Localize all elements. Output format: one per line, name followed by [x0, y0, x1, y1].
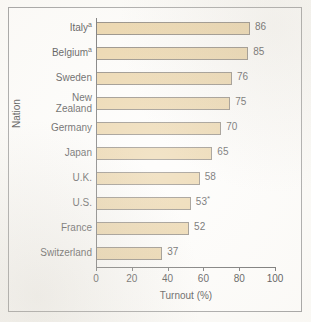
x-tick-label: 60 [198, 273, 209, 284]
category-label: France [6, 222, 92, 233]
bar-row: Sweden76 [96, 68, 275, 93]
bar-row: Japan65 [96, 143, 275, 168]
bar [96, 247, 162, 260]
bar-row: U.K.58 [96, 168, 275, 193]
x-tick [203, 267, 204, 271]
bar [96, 122, 221, 135]
bar-value-label: 75 [235, 95, 246, 108]
bar-row: U.S.53* [96, 193, 275, 218]
category-label: Japan [6, 147, 92, 158]
x-tick-label: 0 [93, 273, 99, 284]
category-label: Switzerland [6, 247, 92, 258]
bar-value-label: 58 [205, 170, 216, 183]
bar [96, 222, 189, 235]
x-tick [132, 267, 133, 271]
y-axis-title: Nation [11, 99, 22, 128]
bar [96, 97, 230, 110]
y-axis-line [96, 18, 97, 268]
chart-figure: Italya86Belgiuma85Sweden76NewZealand75Ge… [0, 0, 311, 322]
category-label: Belgiuma [6, 47, 92, 58]
bar-row: France52 [96, 218, 275, 243]
bar-row: NewZealand75 [96, 93, 275, 118]
x-tick [239, 267, 240, 271]
x-tick-label: 20 [126, 273, 137, 284]
x-axis-line [96, 267, 276, 268]
category-label: Sweden [6, 72, 92, 83]
bar [96, 22, 250, 35]
x-axis-title: Turnout (%) [96, 290, 276, 301]
bar-row: Italya86 [96, 18, 275, 43]
category-label: U.S. [6, 197, 92, 208]
x-tick [96, 267, 97, 271]
bar-value-label: 70 [226, 120, 237, 133]
bar [96, 197, 191, 210]
bar-value-label: 76 [237, 70, 248, 83]
x-tick-label: 100 [267, 273, 284, 284]
bar-row: Belgiuma85 [96, 43, 275, 68]
bar-value-label: 65 [217, 145, 228, 158]
plot-area: Italya86Belgiuma85Sweden76NewZealand75Ge… [96, 18, 275, 266]
bar-value-label: 37 [167, 245, 178, 258]
bar [96, 172, 200, 185]
bar [96, 147, 212, 160]
x-tick [168, 267, 169, 271]
x-tick-label: 80 [234, 273, 245, 284]
bar [96, 72, 232, 85]
bar-value-label: 53* [196, 195, 210, 208]
bar [96, 47, 248, 60]
x-tick-label: 40 [162, 273, 173, 284]
bar-row: Switzerland37 [96, 243, 275, 268]
bar-value-label: 52 [194, 220, 205, 233]
bar-row: Germany70 [96, 118, 275, 143]
category-label: Italya [6, 22, 92, 33]
bar-value-label: 86 [255, 20, 266, 33]
category-label: U.K. [6, 172, 92, 183]
x-tick [275, 267, 276, 271]
bar-value-label: 85 [253, 45, 264, 58]
